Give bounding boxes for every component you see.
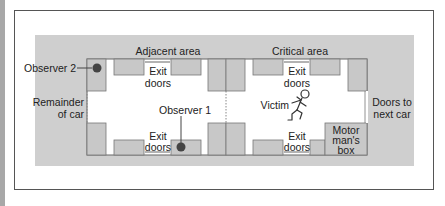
doors-to-next-car-label-line1: Doors to [368, 96, 416, 108]
adjacent-area-label: Adjacent area [128, 45, 208, 57]
observer-2-label: Observer 2 [20, 62, 76, 74]
remainder-of-car-label-line2: of car [20, 108, 84, 120]
seat-block [348, 59, 367, 91]
seat-block [208, 123, 226, 155]
observer-1-label: Observer 1 [150, 104, 220, 116]
observer-2-marker [93, 64, 102, 73]
exit-doors-top-right-label-line2: doors [281, 77, 313, 89]
seat-block [226, 59, 245, 91]
seat-block [171, 59, 201, 75]
seat-block [208, 59, 226, 91]
seat-block [226, 123, 245, 155]
seat-block [253, 140, 283, 155]
exit-doors-top-right-label-line1: Exit [281, 65, 313, 77]
seat-block [171, 140, 201, 155]
exit-doors-bottom-right-label-line2: doors [281, 141, 313, 153]
doors-to-next-car-label-line2: next car [368, 108, 416, 120]
exit-doors-bottom-left-label-line2: doors [142, 141, 174, 153]
remainder-of-car-label-line1: Remainder [20, 96, 84, 108]
seat-block [310, 59, 340, 75]
seat-block [253, 59, 283, 75]
exit-doors-top-left-label-line2: doors [142, 77, 174, 89]
victim-label: Victim [255, 99, 289, 111]
seat-block [114, 140, 144, 155]
exit-doors-top-left-label-line1: Exit [142, 65, 174, 77]
motormans-box-label-line3: box [325, 144, 367, 156]
seat-block [114, 59, 144, 75]
seat-block [87, 123, 106, 155]
observer-1-marker [177, 143, 186, 152]
critical-area-label: Critical area [260, 45, 340, 57]
